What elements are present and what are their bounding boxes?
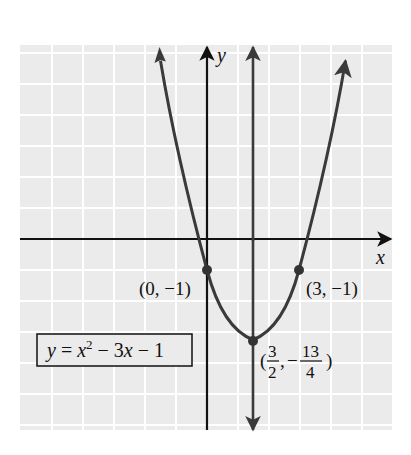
svg-text:−: − (287, 350, 298, 371)
y-axis-label: y (215, 44, 226, 67)
svg-text:): ) (326, 350, 332, 372)
point-3-neg1 (294, 265, 304, 275)
svg-text:2: 2 (268, 363, 277, 382)
svg-text:3: 3 (268, 342, 277, 361)
svg-text:(: ( (260, 350, 266, 372)
point-label-3-neg1: (3, −1) (306, 278, 358, 300)
x-axis-label: x (375, 246, 385, 268)
point-label-0-neg1: (0, −1) (139, 278, 191, 300)
svg-text:,: , (280, 350, 285, 371)
svg-text:13: 13 (302, 342, 319, 361)
svg-text:y = x2 − 3x − 1: y = x2 − 3x − 1 (45, 337, 164, 362)
parabola-graph: y x (0, −1) (3, −1) ( 3 2 , − 13 4 ) y =… (0, 0, 411, 455)
vertex-point (248, 336, 258, 346)
equation-box: y = x2 − 3x − 1 (37, 334, 192, 366)
point-0-neg1 (202, 265, 212, 275)
svg-text:4: 4 (306, 363, 315, 382)
